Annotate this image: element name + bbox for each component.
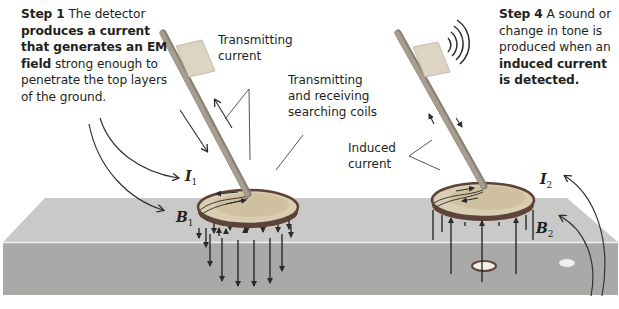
step-4-bold: induced current is detected. xyxy=(499,57,607,88)
step-4-caption: Step 4 A sound or change in tone is prod… xyxy=(499,6,619,89)
coils-label: Transmitting and receiving searching coi… xyxy=(288,72,377,120)
step-1-heading: Step 1 xyxy=(21,7,65,21)
sound-wave-icon xyxy=(448,20,469,64)
symbol-i2: I2 xyxy=(540,171,552,190)
symbol-b1: B1 xyxy=(176,209,194,228)
symbol-b2: B2 xyxy=(536,220,554,239)
step-1-caption: Step 1 The detector produces a current t… xyxy=(21,6,181,106)
buried-metal-coin xyxy=(559,259,575,267)
induced-current-label: Induced current xyxy=(348,140,396,172)
buried-metal-ring xyxy=(472,261,496,271)
transmitting-current-label: Transmitting current xyxy=(218,32,293,64)
symbol-i1: I1 xyxy=(185,168,197,187)
metal-detector-diagram: Step 1 The detector produces a current t… xyxy=(0,0,619,309)
step-4-heading: Step 4 xyxy=(499,7,543,21)
